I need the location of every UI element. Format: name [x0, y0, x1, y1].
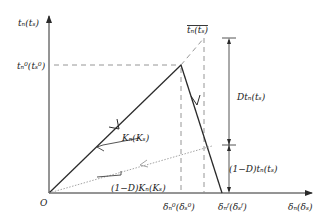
dimension-arrow-mid-down — [227, 145, 231, 151]
loading-direction-arrow — [109, 119, 119, 129]
softening-line — [181, 65, 222, 193]
x-axis-label: δₙ(δₛ) — [288, 202, 313, 212]
dimension-arrow-top — [227, 38, 231, 44]
residual-traction-label: (1−D)tₙ(tₛ) — [229, 164, 278, 174]
stiffness-label: Kₙ(Kₛ) — [121, 133, 150, 143]
degraded-stiffness-label: (1−D)Kₙ(Kₛ) — [111, 183, 166, 193]
damage-traction-label: Dtₙ(tₛ) — [236, 92, 266, 102]
extension-dashed — [181, 38, 204, 65]
degraded-stiffness-leader — [97, 175, 121, 177]
loading-line — [49, 65, 181, 193]
origin-label: O — [40, 198, 48, 208]
dimension-arrow-bottom — [227, 187, 231, 193]
y-axis-label: tₙ(tₛ) — [18, 18, 39, 28]
dimension-arrow-mid-up — [227, 139, 231, 145]
delta-final-label: δₙᶠ(δₛᶠ) — [218, 202, 247, 212]
delta-onset-label: δₙ⁰(δₛ⁰) — [163, 202, 195, 212]
stiffness-angle-mark — [97, 147, 104, 151]
peak-traction-label: tₙ⁰(tₛ⁰) — [17, 61, 46, 71]
max-traction-label: tₙ(tₛ) — [187, 25, 208, 35]
traction-separation-diagram: tₙ(tₛ) tₙ⁰(tₛ⁰) tₙ(tₛ) Dtₙ(tₛ) (1−D)tₙ(t… — [0, 0, 332, 224]
